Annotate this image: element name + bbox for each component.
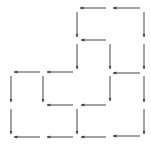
arrow-grid-diagram	[0, 0, 151, 150]
arrows-group	[11, 8, 144, 137]
